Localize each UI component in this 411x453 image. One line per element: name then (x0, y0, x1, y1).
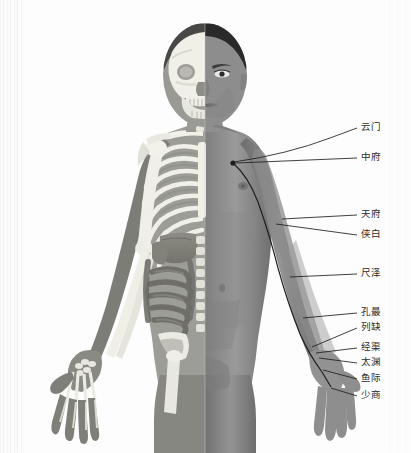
acupoint-label-LU6[interactable]: 孔最 (361, 306, 382, 317)
acupoint-label-LU8[interactable]: 经渠 (361, 341, 382, 352)
acupoint-label-LU3[interactable]: 天府 (361, 208, 382, 219)
acupoint-label-LU4[interactable]: 侠白 (361, 228, 382, 239)
acupoint-label-LU9[interactable]: 太渊 (361, 356, 382, 367)
spine (196, 236, 205, 332)
acupoint-label-LU11[interactable]: 少商 (361, 389, 382, 400)
acupoint-label-LU10[interactable]: 鱼际 (361, 372, 382, 383)
acupoint-chart-figure: 云门 中府 天府 侠白 尺泽 孔最 列缺 经渠 太渊 鱼际 少商 (0, 0, 411, 453)
acupoint-marker-chest (230, 160, 235, 165)
body-skin-half (205, 120, 361, 453)
anatomy-illustration (0, 0, 411, 453)
acupoint-label-LU1[interactable]: 中府 (361, 151, 382, 162)
acupoint-label-LU7[interactable]: 列缺 (361, 321, 382, 332)
body-skeleton-half (50, 120, 206, 453)
acupoint-label-LU2[interactable]: 云门 (361, 121, 382, 132)
acupoint-label-LU5[interactable]: 尺泽 (361, 267, 382, 278)
